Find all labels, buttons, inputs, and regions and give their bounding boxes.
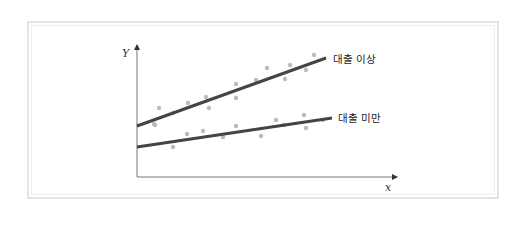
data-point	[185, 132, 189, 136]
x-axis-label: x	[385, 181, 392, 194]
data-point	[304, 68, 308, 72]
data-point	[302, 113, 306, 117]
data-point	[312, 53, 316, 57]
data-point	[288, 63, 292, 67]
regression-lines	[137, 58, 332, 147]
regression-diagram: Y x 대출 이상 대출 미만	[0, 0, 522, 230]
data-point	[157, 106, 161, 110]
data-point	[283, 77, 287, 81]
data-point	[153, 123, 157, 127]
data-point	[234, 82, 238, 86]
lower-regression-line	[137, 118, 332, 147]
lower-series-label: 대출 미만	[338, 112, 381, 124]
data-point	[201, 129, 205, 133]
data-point	[234, 96, 238, 100]
upper-regression-line	[137, 58, 326, 126]
data-point	[259, 134, 263, 138]
data-point	[207, 106, 211, 110]
data-point	[234, 124, 238, 128]
upper-series-label: 대출 이상	[333, 53, 376, 65]
data-point	[274, 118, 278, 122]
data-point	[204, 95, 208, 99]
data-point	[265, 66, 269, 70]
y-axis-label: Y	[122, 47, 131, 60]
data-point	[304, 126, 308, 130]
data-point	[186, 101, 190, 105]
data-point	[171, 145, 175, 149]
